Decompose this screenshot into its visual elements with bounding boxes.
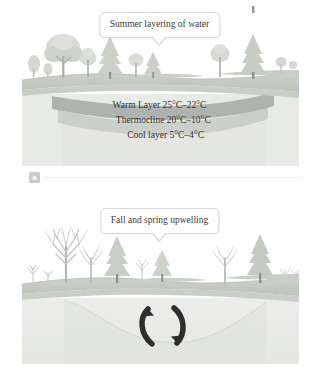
panel-b-callout: Fall and spring upwelling [100,208,219,234]
warm-layer-label: Warm Layer 25°C–22°C [113,101,207,111]
callout-tail-fill [153,232,167,240]
cool-layer-label: Cool layer 5°C–4°C [127,131,204,141]
panel-a-footer: a [29,172,301,183]
panel-a-badge: a [29,172,40,183]
thermocline-label: Thermocline 20°C–10°C [116,116,211,126]
panel-b-callout-text: Fall and spring upwelling [111,215,208,225]
callout-tail-fill [152,36,166,44]
panel-a-callout: Summer layering of water [99,12,220,38]
panel-a-callout-text: Summer layering of water [110,19,209,29]
panel-a: Summer layering of water Warm Layer 25°C… [0,0,319,193]
panel-b: Fall and spring upwelling b [0,190,319,386]
lake-stratification-figure: Summer layering of water Warm Layer 25°C… [0,0,319,386]
panel-a-rule [45,177,301,178]
